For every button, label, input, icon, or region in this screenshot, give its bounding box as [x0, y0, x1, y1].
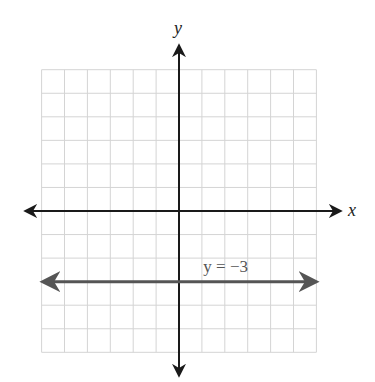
coordinate-plane: x y y = −3	[0, 0, 375, 382]
y-axis-label: y	[172, 18, 182, 38]
x-axis-label: x	[347, 200, 356, 220]
line-equation-label: y = −3	[203, 257, 248, 276]
